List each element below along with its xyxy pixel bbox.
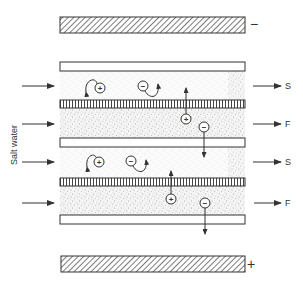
svg-text:−: − xyxy=(202,123,207,132)
outlet-label-3: S xyxy=(285,157,291,167)
svg-text:−: − xyxy=(129,157,134,166)
anion-membrane-1 xyxy=(60,62,245,71)
cation-membrane-2 xyxy=(60,178,245,186)
cathode-sign: − xyxy=(250,16,258,32)
channel-fresh-2 xyxy=(60,186,245,215)
svg-text:+: + xyxy=(98,84,103,93)
anode-electrode: + xyxy=(61,256,255,272)
salt-water-label: Salt water xyxy=(9,125,19,165)
channel-salt-2 xyxy=(60,147,245,178)
channel-fresh-1 xyxy=(60,108,245,138)
outlet-label-1: S xyxy=(285,81,291,91)
outlet-label-2: F xyxy=(285,119,291,129)
svg-text:+: + xyxy=(169,195,174,204)
svg-text:+: + xyxy=(184,115,189,124)
svg-text:+: + xyxy=(97,158,102,167)
cathode-electrode: − xyxy=(60,16,258,33)
svg-text:−: − xyxy=(203,199,208,208)
anion-membrane-2 xyxy=(60,138,245,147)
svg-text:−: − xyxy=(141,82,146,91)
cation-membrane-1 xyxy=(60,100,245,108)
outlet-label-4: F xyxy=(285,198,291,208)
channel-salt-1 xyxy=(60,71,245,100)
inlet-arrows xyxy=(22,86,54,203)
electrodialysis-diagram: − + Salt water S F S F xyxy=(0,0,303,288)
anode-sign: + xyxy=(247,256,255,272)
outlet-arrows xyxy=(253,86,281,203)
anion-membrane-3 xyxy=(60,215,245,224)
